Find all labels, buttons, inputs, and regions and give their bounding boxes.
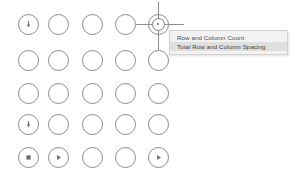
grid-node[interactable]	[82, 147, 103, 168]
grid-node[interactable]	[148, 83, 169, 104]
arrow-down-circle-icon	[19, 15, 38, 34]
play-triangle-icon	[49, 148, 68, 167]
grid-node[interactable]	[115, 50, 136, 71]
stop-square-icon	[19, 148, 38, 167]
arrow-down-circle-icon	[19, 115, 38, 134]
grid-node[interactable]	[18, 14, 39, 35]
array-grid-canvas[interactable]: Row and Column CountTotal Row and Column…	[0, 0, 298, 181]
grid-node[interactable]	[18, 147, 39, 168]
grid-node[interactable]	[48, 14, 69, 35]
grid-node[interactable]	[115, 114, 136, 135]
grid-node[interactable]	[115, 14, 136, 35]
grid-node[interactable]	[148, 114, 169, 135]
context-menu[interactable]: Row and Column CountTotal Row and Column…	[169, 30, 288, 55]
grid-node[interactable]	[115, 147, 136, 168]
grid-node[interactable]	[48, 50, 69, 71]
grid-node[interactable]	[115, 83, 136, 104]
context-menu-item-label: Total Row and Column Spacing	[177, 42, 266, 51]
grid-node[interactable]	[18, 83, 39, 104]
grid-node[interactable]	[82, 83, 103, 104]
context-menu-item[interactable]: Row and Column Count	[170, 33, 287, 42]
grid-node[interactable]	[148, 147, 169, 168]
grid-node[interactable]	[82, 114, 103, 135]
context-menu-item[interactable]: Total Row and Column Spacing	[170, 42, 287, 51]
grid-node[interactable]	[48, 147, 69, 168]
grid-node[interactable]	[148, 50, 169, 71]
grid-node[interactable]	[18, 50, 39, 71]
circle-grid	[0, 0, 298, 181]
grid-node[interactable]	[48, 114, 69, 135]
play-triangle-icon	[149, 148, 168, 167]
context-menu-item-label: Row and Column Count	[177, 33, 244, 42]
grid-node[interactable]	[48, 83, 69, 104]
grid-node[interactable]	[82, 50, 103, 71]
grid-node[interactable]	[82, 14, 103, 35]
grid-node[interactable]	[18, 114, 39, 135]
grid-node[interactable]	[148, 14, 169, 35]
